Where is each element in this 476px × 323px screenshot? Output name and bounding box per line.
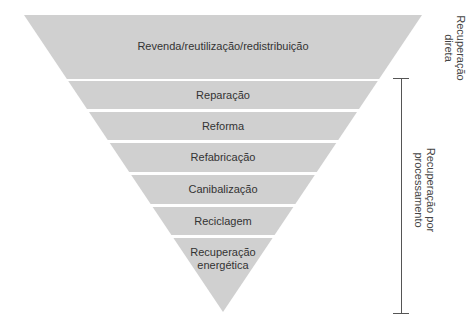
- level-label-resale: Revenda/reutilização/redistribuição: [137, 40, 308, 53]
- level-label-refurbish: Reforma: [202, 120, 244, 133]
- level-label-cannibalization: Canibalização: [188, 183, 257, 196]
- side-label-processing-line2: processamento: [413, 148, 425, 232]
- level-label-recycling: Reciclagem: [194, 215, 251, 228]
- level-label-remanufacture: Refabricação: [191, 151, 256, 164]
- side-label-direct-line1: Recuperação: [455, 15, 467, 80]
- side-label-processing-recovery: Recuperação por processamento: [413, 148, 437, 232]
- side-label-direct-recovery: Recuperação direta: [443, 15, 467, 80]
- diagram-stage: Revenda/reutilização/redistribuição Repa…: [0, 0, 476, 323]
- level-label-repair: Reparação: [196, 89, 250, 102]
- level-label-energy-recovery: Recuperação energética: [178, 246, 268, 272]
- side-label-direct-line2: direta: [443, 15, 455, 80]
- side-label-processing-line1: Recuperação por: [425, 148, 437, 232]
